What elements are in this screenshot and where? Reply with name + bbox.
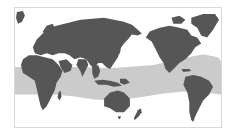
map-canvas [15,8,221,127]
land-south-america [183,75,213,122]
land-greenland [191,14,219,38]
land-new-zealand [134,108,142,120]
land-iceland [16,11,25,24]
world-map: Tropical zone world map [14,7,222,128]
land-arctic-islands [171,16,185,24]
land-tasmania [118,116,121,119]
